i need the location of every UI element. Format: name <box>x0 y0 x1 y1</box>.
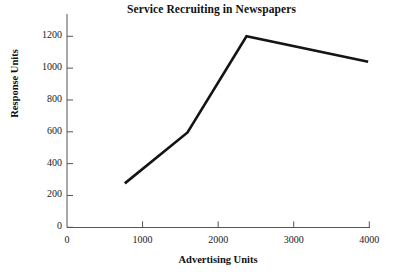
y-axis-ticks <box>67 36 73 227</box>
data-series-line <box>125 36 368 183</box>
plot-area <box>0 0 393 277</box>
x-axis-ticks <box>143 221 370 227</box>
chart-figure: Service Recruiting in Newspapers Respons… <box>0 0 393 277</box>
data-series-group <box>125 36 368 183</box>
axes <box>67 14 370 228</box>
